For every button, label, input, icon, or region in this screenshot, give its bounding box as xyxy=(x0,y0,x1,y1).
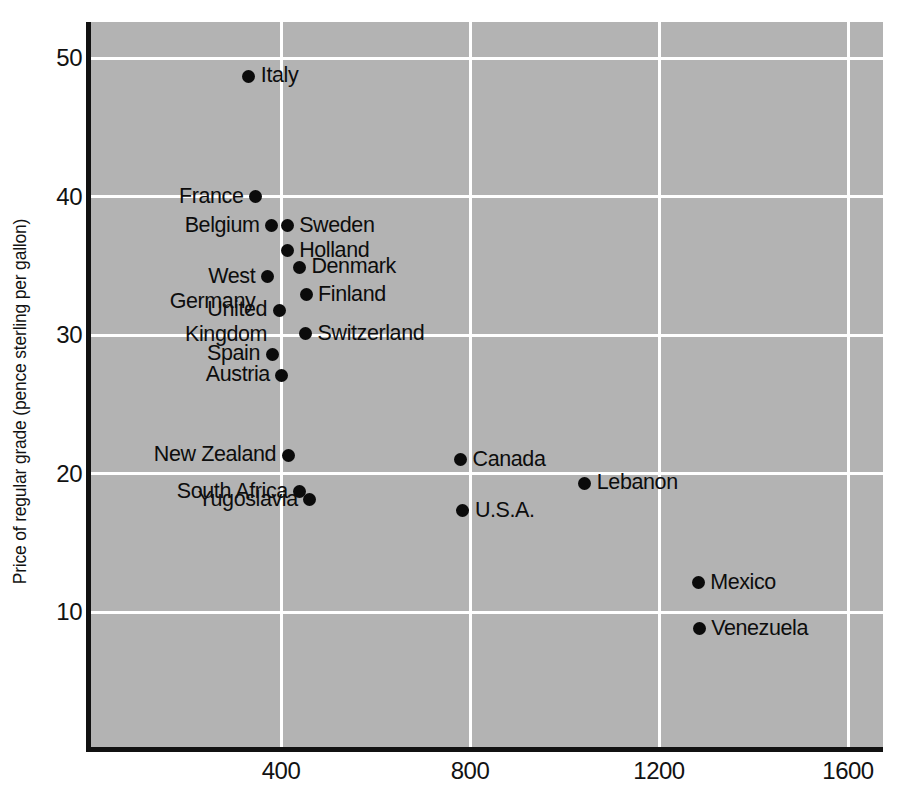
data-point[interactable] xyxy=(265,219,278,232)
data-point-label: Mexico xyxy=(710,572,776,594)
plot-inner: ItalyFranceBelgiumSwedenHollandDenmarkWe… xyxy=(91,22,883,747)
y-axis-tick-label: 50 xyxy=(56,44,82,72)
data-point[interactable] xyxy=(693,622,706,635)
scatter-chart-figure: Price of regular grade (pence sterling p… xyxy=(0,0,904,803)
data-point-label: Italy xyxy=(261,65,298,87)
y-axis-tick-label: 40 xyxy=(56,183,82,211)
gridline-horizontal xyxy=(91,57,883,60)
data-point[interactable] xyxy=(299,327,312,340)
data-point-label: U.S.A. xyxy=(475,500,535,522)
data-point[interactable] xyxy=(293,261,306,274)
data-point-label: Switzerland xyxy=(318,323,425,345)
data-point-label: Finland xyxy=(318,284,386,306)
data-point-label: Denmark xyxy=(311,256,395,278)
data-point[interactable] xyxy=(242,70,255,83)
data-point-label: Canada xyxy=(473,449,546,471)
y-axis-tick-label: 20 xyxy=(56,460,82,488)
data-point-label: New Zealand xyxy=(154,445,276,467)
data-point-label: Belgium xyxy=(185,215,260,237)
data-point[interactable] xyxy=(281,219,294,232)
gridline-horizontal xyxy=(91,611,883,614)
y-axis-tick-label: 10 xyxy=(56,598,82,626)
data-point[interactable] xyxy=(249,190,262,203)
data-point-label: Sweden xyxy=(299,215,374,237)
x-axis-tick-label: 1200 xyxy=(633,757,684,785)
data-point-label: Austria xyxy=(206,364,270,386)
data-point-label: Lebanon xyxy=(597,472,678,494)
x-axis-tick-label: 800 xyxy=(451,757,490,785)
gridline-vertical xyxy=(469,22,472,747)
y-axis-title: Price of regular grade (pence sterling p… xyxy=(0,0,40,803)
data-point[interactable] xyxy=(300,288,313,301)
gridline-horizontal xyxy=(91,472,883,475)
data-point[interactable] xyxy=(692,576,705,589)
data-point[interactable] xyxy=(261,270,274,283)
y-axis-tick-label: 30 xyxy=(56,321,82,349)
data-point[interactable] xyxy=(266,348,279,361)
data-point-label: Yugoslavia xyxy=(198,489,298,511)
data-point[interactable] xyxy=(456,504,469,517)
data-point[interactable] xyxy=(273,304,286,317)
x-axis-tick-label: 400 xyxy=(262,757,301,785)
data-point[interactable] xyxy=(454,453,467,466)
data-point-label: West xyxy=(208,266,255,288)
data-point-label: France xyxy=(179,186,244,208)
data-point[interactable] xyxy=(275,369,288,382)
data-point-label: United xyxy=(207,299,267,321)
data-point-label: Venezuela xyxy=(711,618,808,640)
plot-area: ItalyFranceBelgiumSwedenHollandDenmarkWe… xyxy=(86,22,883,752)
data-point[interactable] xyxy=(578,477,591,490)
data-point[interactable] xyxy=(281,244,294,257)
data-point[interactable] xyxy=(303,493,316,506)
x-axis-tick-label: 1600 xyxy=(822,757,873,785)
data-point[interactable] xyxy=(282,449,295,462)
gridline-vertical xyxy=(847,22,850,747)
gridline-vertical xyxy=(658,22,661,747)
gridline-vertical xyxy=(280,22,283,747)
